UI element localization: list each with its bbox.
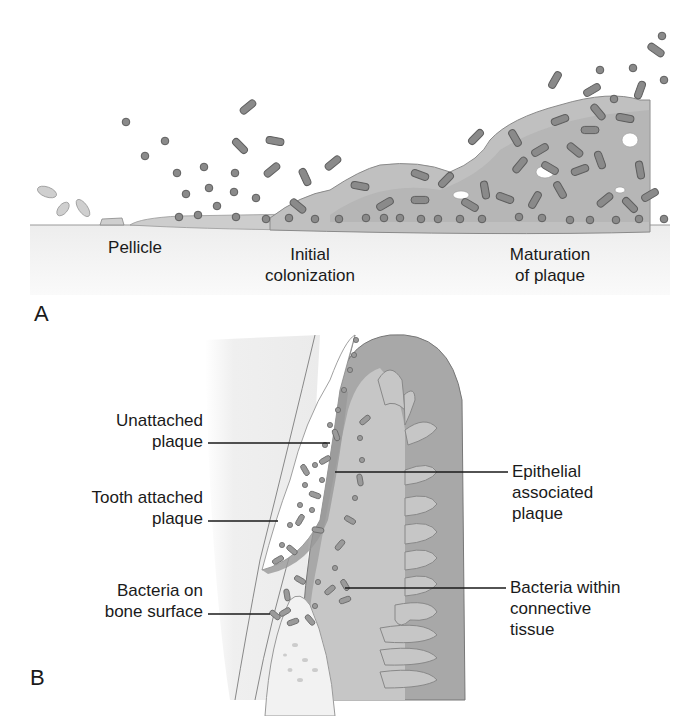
pellicle-film xyxy=(100,218,124,225)
panel-b-gingival-section: Unattached plaque Tooth attached plaque … xyxy=(0,320,692,716)
label-bacteria-connective-tissue: Bacteria within connective tissue xyxy=(510,577,685,640)
label-bacteria-bone-surface: Bacteria on bone surface xyxy=(40,580,203,622)
panel-a-plaque-formation: Pellicle Initial colonization Maturation… xyxy=(0,0,692,320)
label-epithelial-associated-plaque: Epithelial associated plaque xyxy=(512,461,682,524)
stage-label-initial-colonization: Initial colonization xyxy=(240,244,380,286)
glycoprotein-shapes xyxy=(36,184,93,219)
panel-letter-b: B xyxy=(30,666,45,690)
stage-label-pellicle: Pellicle xyxy=(95,237,175,258)
stage-label-maturation: Maturation of plaque xyxy=(490,244,610,286)
label-unattached-plaque: Unattached plaque xyxy=(60,410,203,452)
label-tooth-attached-plaque: Tooth attached plaque xyxy=(40,487,203,529)
